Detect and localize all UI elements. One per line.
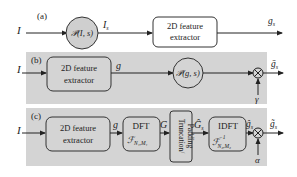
dft-label: DFT [132,121,150,131]
feature-extractor-b-line1: 2D feature [61,63,97,73]
signal-g-hat-label: ĝs [246,119,254,130]
feature-extractor-c-line2: extractor [63,135,93,145]
panel-b: (b) I 2D feature extractor g 𝒫(g, s) γ ḡ… [16,55,283,104]
gamma-label: γ [255,94,259,104]
signal-G-hat-label: Ĝs [194,119,204,131]
alpha-label: α [255,155,260,165]
feature-extractor-c-line1: 2D feature [60,123,96,133]
block-diagram: (a) I 𝒫(I, s) Is 2D feature extractor gs… [0,0,297,177]
signal-is-label: Is [102,19,109,31]
panel-a-label: (a) [37,11,47,21]
idft-label: IDFT [218,121,239,131]
signal-g-label-c: g [113,119,118,130]
signal-G-label: G [160,119,167,130]
projection-circle-a-label: 𝒫(I, s) [71,28,93,38]
panel-b-label: (b) [31,55,42,65]
panel-a: (a) I 𝒫(I, s) Is 2D feature extractor gs [16,11,282,49]
panel-a-input-label: I [16,24,22,36]
output-c-label: g̃s [270,119,278,130]
multiplier-c [253,128,263,138]
signal-g-label-b: g [116,60,121,71]
panel-c: (c) I 2D feature extractor g DFT ℱN₁,M₁ … [16,111,283,165]
multiplier-b [253,68,263,78]
output-b-label: ḡs [271,59,279,70]
panel-c-input-label: I [16,124,22,136]
output-a-label: gs [268,16,276,27]
feature-extractor-a-line2: extractor [170,32,200,42]
truncation-label: Truncation/ [177,119,186,155]
projection-circle-b-label: 𝒫(g, s) [176,68,200,78]
feature-extractor-a-line1: 2D feature [167,21,203,31]
panel-b-input-label: I [16,63,22,75]
feature-extractor-b-line2: extractor [64,75,94,85]
panel-c-label: (c) [31,111,41,121]
